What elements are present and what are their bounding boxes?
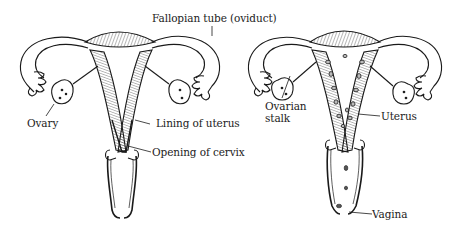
label-opening-of-cervix: Opening of cervix [152, 146, 245, 158]
left-fundus [85, 32, 155, 47]
label-ovary: Ovary [27, 117, 58, 129]
label-ovarian-stalk-line2: stalk [265, 112, 290, 124]
label-uterus: Uterus [381, 110, 417, 122]
diagram-canvas: Fallopian tube (oviduct) Ovary Lining of… [0, 0, 466, 234]
left-uterine-wall-r [118, 50, 152, 152]
left-vagina [107, 156, 136, 218]
label-lining-of-uterus: Lining of uterus [156, 117, 240, 129]
label-vagina: Vagina [372, 208, 407, 220]
right-fundus [310, 31, 380, 47]
label-ovarian-stalk-line1: Ovarian [265, 100, 307, 112]
label-fallopian-tube: Fallopian tube (oviduct) [152, 12, 277, 24]
left-ovary-shape [52, 80, 73, 104]
